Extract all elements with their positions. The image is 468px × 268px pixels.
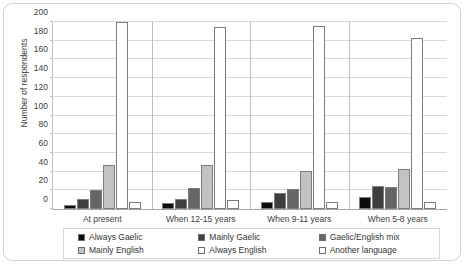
bar[interactable] xyxy=(201,165,213,209)
y-axis-tick-label: 60 xyxy=(39,138,48,148)
bar-group: When 9-11 years xyxy=(250,22,349,209)
y-axis-tick-label: 180 xyxy=(34,26,48,36)
bar[interactable] xyxy=(90,190,102,209)
bar[interactable] xyxy=(300,171,312,209)
legend-swatch-icon xyxy=(319,234,326,241)
legend-label: Gaelic/English mix xyxy=(330,232,400,242)
legend-label: Always Gaelic xyxy=(89,232,142,242)
bar[interactable] xyxy=(64,205,76,209)
y-axis-tick-label: 120 xyxy=(34,82,48,92)
bar[interactable] xyxy=(398,169,410,209)
y-axis-tick-label: 140 xyxy=(34,63,48,73)
bar[interactable] xyxy=(359,197,371,209)
bar[interactable] xyxy=(372,186,384,209)
legend-swatch-icon xyxy=(198,247,205,254)
legend-label: Mainly English xyxy=(89,245,144,255)
y-axis-tick-label: 0 xyxy=(43,194,48,204)
bar[interactable] xyxy=(116,22,128,209)
y-axis-title: Number of respondents xyxy=(19,23,33,143)
bar[interactable] xyxy=(424,202,436,209)
x-axis-tick-label: When 5-8 years xyxy=(349,214,448,224)
legend-item[interactable]: Gaelic/English mix xyxy=(319,231,439,244)
bar[interactable] xyxy=(287,189,299,209)
y-axis-tick-label: 160 xyxy=(34,44,48,54)
bar[interactable] xyxy=(129,202,141,209)
y-axis-tick-label: 200 xyxy=(34,7,48,17)
legend-label: Mainly Gaelic xyxy=(209,232,260,242)
bar[interactable] xyxy=(103,165,115,209)
legend-swatch-icon xyxy=(319,247,326,254)
bar[interactable] xyxy=(274,193,286,209)
y-axis-tick-label: 20 xyxy=(39,175,48,185)
bar-group: When 5-8 years xyxy=(349,22,448,209)
legend-label: Another language xyxy=(330,245,397,255)
y-axis-tick-label: 80 xyxy=(39,119,48,129)
legend-swatch-icon xyxy=(78,247,85,254)
legend-item[interactable]: Always Gaelic xyxy=(78,231,198,244)
bar[interactable] xyxy=(313,26,325,209)
legend-swatch-icon xyxy=(78,234,85,241)
plot-wrapper: 020406080100120140160180200 At presentWh… xyxy=(52,22,447,210)
legend-swatch-icon xyxy=(198,234,205,241)
x-axis-tick-label: At present xyxy=(53,214,152,224)
bar[interactable] xyxy=(214,27,226,209)
legend-item[interactable]: Always English xyxy=(198,244,318,257)
bar-group: At present xyxy=(53,22,152,209)
bar[interactable] xyxy=(175,199,187,209)
y-axis-tick-label: 100 xyxy=(34,101,48,111)
bar[interactable] xyxy=(326,202,338,209)
bar[interactable] xyxy=(261,202,273,209)
bar[interactable] xyxy=(385,187,397,209)
x-axis-tick-label: When 9-11 years xyxy=(250,214,349,224)
bar[interactable] xyxy=(188,188,200,210)
bar-group: When 12-15 years xyxy=(152,22,251,209)
bar[interactable] xyxy=(77,199,89,209)
legend-item[interactable]: Mainly Gaelic xyxy=(198,231,318,244)
plot-area: 020406080100120140160180200 At presentWh… xyxy=(52,22,447,210)
chart-legend: Always GaelicMainly GaelicGaelic/English… xyxy=(63,228,440,259)
x-axis-tick-label: When 12-15 years xyxy=(152,214,251,224)
legend-item[interactable]: Another language xyxy=(319,244,439,257)
y-axis-tick-label: 40 xyxy=(39,157,48,167)
bar-groups: At presentWhen 12-15 yearsWhen 9-11 year… xyxy=(53,22,447,209)
chart-frame: Number of respondents 020406080100120140… xyxy=(3,3,461,261)
legend-item[interactable]: Mainly English xyxy=(78,244,198,257)
bar[interactable] xyxy=(411,38,423,209)
bar[interactable] xyxy=(162,203,174,209)
bar[interactable] xyxy=(227,200,239,209)
legend-label: Always English xyxy=(209,245,266,255)
